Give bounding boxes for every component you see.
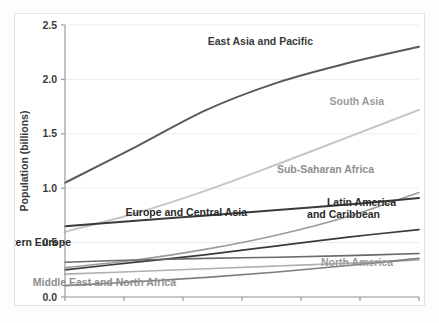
x-axis-tick-label: 2000s xyxy=(316,303,345,305)
y-axis-tick-label: 1.0 xyxy=(42,182,57,194)
x-axis-tick-label: 1970s xyxy=(139,303,168,305)
y-axis-tick-label: 2.5 xyxy=(42,19,57,31)
series-label-latin-america: Latin America xyxy=(327,196,396,208)
y-axis-tick-label: 0.0 xyxy=(42,291,57,303)
screenshot-root: 0.00.51.01.52.02.51960s1970s1980s1990s20… xyxy=(0,0,439,323)
axis-titles-group: Population (billions) xyxy=(18,111,30,212)
chart-frame: 0.00.51.01.52.02.51960s1970s1980s1990s20… xyxy=(14,13,425,306)
x-axis-tick-label: 2010s xyxy=(375,303,404,305)
x-axis-tick-label: 1980s xyxy=(198,303,227,305)
series-label-western-europe: Western Europe xyxy=(15,236,71,248)
series-label-europe-and-central-asia: Europe and Central Asia xyxy=(125,206,247,218)
series-label-north-america: North America xyxy=(321,256,393,268)
x-axis-tick-label: 1960s xyxy=(80,303,109,305)
y-axis-tick-label: 2.0 xyxy=(42,73,57,85)
series-label-sub-saharan-africa: Sub-Saharan Africa xyxy=(277,163,374,175)
x-axis-tick-label: 1990s xyxy=(257,303,286,305)
series-label-east-asia-and-pacific: East Asia and Pacific xyxy=(208,35,313,47)
y-axis-title: Population (billions) xyxy=(18,111,30,212)
series-label-middle-east-and-north-africa: Middle East and North Africa xyxy=(33,276,176,288)
population-by-region-line-chart: 0.00.51.01.52.02.51960s1970s1980s1990s20… xyxy=(15,14,424,305)
series-label-south-asia: South Asia xyxy=(330,95,385,107)
y-axis-tick-label: 1.5 xyxy=(42,127,57,139)
series-label-and-caribbean: and Caribbean xyxy=(307,208,380,220)
